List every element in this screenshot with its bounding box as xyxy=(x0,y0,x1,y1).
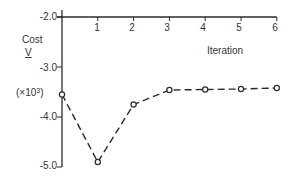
y-axis-label: Cost xyxy=(22,34,43,46)
data-point-marker xyxy=(274,85,279,90)
x-tick-label: 6 xyxy=(267,22,283,34)
y-tick-label: -2.0 xyxy=(17,11,57,23)
y-tick-label: -3.0 xyxy=(17,62,57,74)
chart-plot-area xyxy=(0,0,293,183)
data-point-marker xyxy=(59,92,64,97)
data-point-marker xyxy=(238,86,243,91)
x-tick-label: 4 xyxy=(195,22,211,34)
data-point-marker xyxy=(203,87,208,92)
data-point-marker xyxy=(131,102,136,107)
x-tick-label: 1 xyxy=(89,22,105,34)
data-point-marker xyxy=(95,159,100,164)
y-tick-label: -4.0 xyxy=(17,111,57,123)
x-tick-label: 3 xyxy=(159,22,175,34)
series-line xyxy=(62,88,277,162)
y-tick-label: -5.0 xyxy=(17,160,57,172)
y-axis-scale-label: (×103) xyxy=(16,85,44,99)
x-tick-label: 5 xyxy=(231,22,247,34)
data-point-marker xyxy=(167,87,172,92)
x-tick-label: 2 xyxy=(124,22,140,34)
y-axis-symbol: V xyxy=(25,47,32,59)
x-axis-label: Iteration xyxy=(207,45,243,57)
